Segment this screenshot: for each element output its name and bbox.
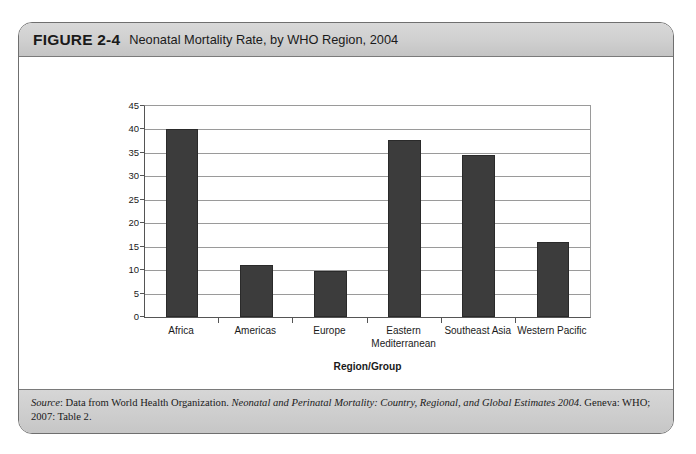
x-label-line: Europe bbox=[313, 325, 345, 336]
gridline bbox=[145, 176, 590, 177]
figure-box: FIGURE 2-4 Neonatal Mortality Rate, by W… bbox=[18, 22, 674, 434]
x-label-line: Americas bbox=[234, 325, 276, 336]
bar bbox=[537, 242, 570, 317]
x-label-line: Africa bbox=[168, 325, 194, 336]
x-label-line: Southeast Asia bbox=[444, 325, 511, 336]
figure-number: FIGURE 2-4 bbox=[33, 31, 120, 49]
bar bbox=[388, 140, 421, 317]
x-category-label: Europe bbox=[292, 325, 366, 338]
x-tick-mark bbox=[292, 318, 293, 323]
y-tick-mark bbox=[140, 246, 144, 247]
figure-title: Neonatal Mortality Rate, by WHO Region, … bbox=[129, 32, 398, 47]
y-tick-mark bbox=[140, 199, 144, 200]
x-category-label: Americas bbox=[218, 325, 292, 338]
y-tick-mark bbox=[140, 152, 144, 153]
gridline bbox=[145, 247, 590, 248]
y-tick-label: 10 bbox=[117, 264, 139, 275]
y-tick-mark bbox=[140, 222, 144, 223]
x-category-label: Western Pacific bbox=[515, 325, 589, 338]
bar bbox=[314, 271, 347, 317]
y-tick-mark bbox=[140, 316, 144, 317]
x-axis-category-labels: AfricaAmericasEuropeEasternMediterranean… bbox=[144, 325, 591, 357]
gridline bbox=[145, 200, 590, 201]
gridline bbox=[145, 294, 590, 295]
y-tick-label: 0 bbox=[117, 311, 139, 322]
y-tick-label: 5 bbox=[117, 287, 139, 298]
gridline bbox=[145, 129, 590, 130]
x-category-label: Southeast Asia bbox=[441, 325, 515, 338]
figure-header: FIGURE 2-4 Neonatal Mortality Rate, by W… bbox=[19, 23, 673, 57]
gridline bbox=[145, 223, 590, 224]
y-tick-label: 20 bbox=[117, 217, 139, 228]
x-tick-mark bbox=[515, 318, 516, 323]
x-axis-title: Region/Group bbox=[144, 361, 591, 372]
y-tick-label: 15 bbox=[117, 240, 139, 251]
y-tick-mark bbox=[140, 105, 144, 106]
gridline bbox=[145, 153, 590, 154]
x-label-line: Eastern bbox=[386, 325, 420, 336]
x-category-label: Africa bbox=[144, 325, 218, 338]
bar bbox=[240, 265, 273, 317]
y-tick-label: 25 bbox=[117, 193, 139, 204]
x-tick-mark bbox=[218, 318, 219, 323]
gridline bbox=[145, 270, 590, 271]
y-tick-label: 40 bbox=[117, 123, 139, 134]
y-axis-tick-labels: 051015202530354045 bbox=[115, 105, 139, 318]
y-axis-title-holder: Deaths per 1000 Live Births bbox=[83, 105, 109, 318]
x-tick-mark bbox=[441, 318, 442, 323]
bar bbox=[166, 129, 199, 317]
bar bbox=[462, 155, 495, 317]
x-label-line: Mediterranean bbox=[371, 338, 435, 349]
source-note: Source: Data from World Health Organizat… bbox=[31, 396, 661, 423]
x-axis-ticks bbox=[144, 318, 591, 324]
x-tick-mark bbox=[367, 318, 368, 323]
figure-source-band: Source: Data from World Health Organizat… bbox=[19, 389, 673, 433]
y-tick-label: 35 bbox=[117, 146, 139, 157]
source-publication-title: Neonatal and Perinatal Mortality: Countr… bbox=[231, 397, 579, 408]
y-tick-mark bbox=[140, 293, 144, 294]
chart-area: Deaths per 1000 Live Births 051015202530… bbox=[19, 57, 673, 389]
y-tick-label: 45 bbox=[117, 100, 139, 111]
plot-area bbox=[144, 105, 591, 318]
source-lead: : Data from World Health Organization. bbox=[60, 397, 231, 408]
y-tick-label: 30 bbox=[117, 170, 139, 181]
x-category-label: EasternMediterranean bbox=[367, 325, 441, 350]
y-tick-mark bbox=[140, 175, 144, 176]
y-tick-mark bbox=[140, 128, 144, 129]
y-tick-mark bbox=[140, 269, 144, 270]
x-label-line: Western Pacific bbox=[517, 325, 586, 336]
source-label: Source bbox=[31, 397, 60, 408]
